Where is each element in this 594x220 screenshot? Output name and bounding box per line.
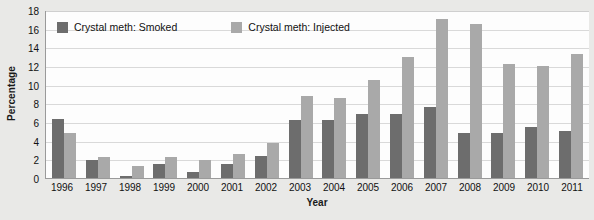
x-axis-tick-label: 1996 <box>45 181 79 196</box>
y-axis-title-label: Percentage <box>6 66 17 121</box>
chart-legend: Crystal meth: Smoked Crystal meth: Injec… <box>57 21 350 33</box>
bar-injected[interactable] <box>267 143 279 178</box>
bar-injected[interactable] <box>132 166 144 178</box>
bar-group <box>284 11 318 178</box>
bar-chart: Percentage 024681012141618 1996199719981… <box>0 0 594 220</box>
x-axis-tick-label: 1999 <box>147 181 181 196</box>
bar-group <box>250 11 284 178</box>
bar-smoked[interactable] <box>390 114 402 178</box>
y-axis-tick-label: 2 <box>33 155 39 166</box>
legend-label-smoked: Crystal meth: Smoked <box>74 21 177 33</box>
bar-injected[interactable] <box>233 154 245 178</box>
bar-group <box>115 11 149 178</box>
bar-group <box>351 11 385 178</box>
bar-injected[interactable] <box>368 80 380 178</box>
bar-group <box>419 11 453 178</box>
bar-group <box>216 11 250 178</box>
bar-smoked[interactable] <box>322 120 334 178</box>
x-axis-tick-label: 2007 <box>419 181 453 196</box>
bar-group <box>182 11 216 178</box>
legend-label-injected: Crystal meth: Injected <box>248 21 350 33</box>
x-axis-title: Year <box>45 197 589 208</box>
x-axis-tick-label: 1997 <box>79 181 113 196</box>
x-axis-tick-label: 2010 <box>521 181 555 196</box>
x-axis-tick-label: 2011 <box>555 181 589 196</box>
bar-group <box>318 11 352 178</box>
x-axis-tick-label: 2008 <box>453 181 487 196</box>
bar-smoked[interactable] <box>356 114 368 178</box>
bar-smoked[interactable] <box>491 133 503 178</box>
y-axis-tick-label: 8 <box>33 99 39 110</box>
bar-smoked[interactable] <box>86 160 98 178</box>
x-axis-tick-label: 2002 <box>249 181 283 196</box>
bar-injected[interactable] <box>334 98 346 178</box>
x-axis-tick-label: 1998 <box>113 181 147 196</box>
bar-smoked[interactable] <box>525 127 537 178</box>
bar-smoked[interactable] <box>559 131 571 178</box>
y-axis-tick-label: 14 <box>28 43 39 54</box>
bar-injected[interactable] <box>537 66 549 178</box>
legend-swatch-icon <box>57 22 68 33</box>
bar-group <box>554 11 588 178</box>
bar-injected[interactable] <box>301 96 313 178</box>
bars-layer <box>46 11 589 178</box>
legend-item-injected[interactable]: Crystal meth: Injected <box>231 21 350 33</box>
bar-injected[interactable] <box>98 157 110 178</box>
bar-smoked[interactable] <box>289 120 301 178</box>
bar-smoked[interactable] <box>424 107 436 178</box>
y-axis-tick-labels: 024681012141618 <box>20 11 42 179</box>
bar-group <box>148 11 182 178</box>
y-axis-tick-label: 6 <box>33 118 39 129</box>
y-axis-tick-label: 12 <box>28 62 39 73</box>
legend-item-smoked[interactable]: Crystal meth: Smoked <box>57 21 177 33</box>
bar-smoked[interactable] <box>458 133 470 178</box>
legend-swatch-icon <box>231 22 242 33</box>
y-axis-tick-label: 4 <box>33 136 39 147</box>
y-axis-tick-label: 0 <box>33 174 39 185</box>
x-axis-tick-label: 2009 <box>487 181 521 196</box>
bar-smoked[interactable] <box>255 156 267 178</box>
x-axis-tick-label: 2006 <box>385 181 419 196</box>
x-axis-tick-labels: 1996199719981999200020012002200320042005… <box>45 181 589 196</box>
bar-smoked[interactable] <box>120 176 132 178</box>
bar-injected[interactable] <box>436 19 448 178</box>
plot-area <box>45 11 589 179</box>
bar-group <box>520 11 554 178</box>
bar-group <box>385 11 419 178</box>
bar-injected[interactable] <box>64 133 76 178</box>
bar-group <box>47 11 81 178</box>
y-axis-tick-label: 10 <box>28 80 39 91</box>
y-axis-tick-label: 16 <box>28 24 39 35</box>
x-axis-tick-label: 2004 <box>317 181 351 196</box>
bar-smoked[interactable] <box>153 164 165 178</box>
bar-smoked[interactable] <box>221 164 233 178</box>
x-axis-tick-label: 2005 <box>351 181 385 196</box>
y-axis-tick-label: 18 <box>28 6 39 17</box>
bar-group <box>487 11 521 178</box>
bar-injected[interactable] <box>402 57 414 178</box>
bar-group <box>453 11 487 178</box>
bar-injected[interactable] <box>571 54 583 178</box>
bar-injected[interactable] <box>503 64 515 178</box>
bar-group <box>81 11 115 178</box>
bar-smoked[interactable] <box>52 119 64 178</box>
bar-injected[interactable] <box>199 160 211 178</box>
x-axis-tick-label: 2001 <box>215 181 249 196</box>
bar-injected[interactable] <box>165 157 177 178</box>
y-axis-title: Percentage <box>2 0 20 186</box>
x-axis-tick-label: 2003 <box>283 181 317 196</box>
x-axis-tick-label: 2000 <box>181 181 215 196</box>
bar-smoked[interactable] <box>187 172 199 178</box>
bar-injected[interactable] <box>470 24 482 178</box>
